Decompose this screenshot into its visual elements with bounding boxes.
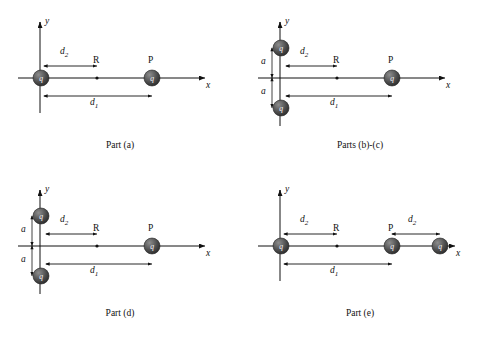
panel-e-x-axis-label: x bbox=[456, 248, 460, 258]
panel-bc-d1-label: d1 bbox=[330, 97, 338, 110]
svg-text:q: q bbox=[39, 272, 43, 281]
panel-e-d1-label: d1 bbox=[330, 265, 338, 278]
panel-e-caption: Part (e) bbox=[240, 308, 480, 318]
panel-bc-y-axis-label: y bbox=[285, 16, 289, 26]
panel-d-x-axis-label: x bbox=[206, 248, 210, 258]
panel-bc-a-top-label: a bbox=[261, 56, 266, 66]
panel-a-d1-label: d1 bbox=[90, 97, 98, 110]
panel-d-d2-label: d2 bbox=[60, 214, 68, 227]
panel-part-bc: q q q y x a a d2 d1 R P Parts (b)-(c) bbox=[240, 8, 480, 168]
panel-bc-d2-label: d2 bbox=[300, 46, 308, 59]
panel-bc-a-bottom-label: a bbox=[261, 86, 266, 96]
panel-a-P-label: P bbox=[148, 55, 153, 65]
svg-text:q: q bbox=[279, 242, 283, 251]
svg-text:q: q bbox=[279, 104, 283, 113]
panel-part-e: q q q y x d2 d2 d1 R P Part (e) bbox=[240, 176, 480, 336]
svg-text:q: q bbox=[39, 212, 43, 221]
panel-a-x-axis-label: x bbox=[206, 80, 210, 90]
panel-d-R-label: R bbox=[93, 223, 99, 233]
svg-text:q: q bbox=[150, 242, 154, 251]
panel-d-y-axis-label: y bbox=[45, 184, 49, 194]
panel-a-d2-label: d2 bbox=[60, 46, 68, 59]
svg-text:q: q bbox=[150, 74, 154, 83]
panel-e-d2-right-label: d2 bbox=[408, 214, 416, 227]
panel-part-d: q q q y x a a d2 d1 R P Part (d) bbox=[0, 176, 240, 336]
panel-a-y-axis-label: y bbox=[45, 16, 49, 26]
panel-bc-P-label: P bbox=[388, 55, 393, 65]
panel-bc-R-label: R bbox=[333, 55, 339, 65]
panel-d-P-label: P bbox=[148, 223, 153, 233]
panel-bc-x-axis-label: x bbox=[446, 80, 450, 90]
svg-text:q: q bbox=[390, 74, 394, 83]
svg-text:q: q bbox=[438, 242, 442, 251]
svg-text:q: q bbox=[39, 74, 43, 83]
panel-d-caption: Part (d) bbox=[0, 308, 240, 318]
panel-e-P-label: P bbox=[388, 223, 393, 233]
panel-a-R-label: R bbox=[93, 55, 99, 65]
panel-d-a-top-label: a bbox=[21, 224, 26, 234]
panel-e-d2-left-label: d2 bbox=[300, 214, 308, 227]
panel-e-y-axis-label: y bbox=[285, 184, 289, 194]
svg-text:q: q bbox=[279, 44, 283, 53]
svg-text:q: q bbox=[390, 242, 394, 251]
panel-bc-caption: Parts (b)-(c) bbox=[240, 140, 480, 150]
panel-e-R-label: R bbox=[333, 223, 339, 233]
panel-d-d1-label: d1 bbox=[90, 265, 98, 278]
panel-a-caption: Part (a) bbox=[0, 140, 240, 150]
panel-part-a: q q y x d2 d1 R P Part (a) bbox=[0, 8, 240, 168]
panel-d-a-bottom-label: a bbox=[21, 254, 26, 264]
